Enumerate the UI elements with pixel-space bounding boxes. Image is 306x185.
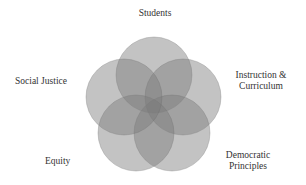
label-democratic-principles: Democratic Principles <box>218 150 278 172</box>
label-instruction-line2: Curriculum <box>228 81 294 92</box>
label-instruction-curriculum: Instruction & Curriculum <box>228 70 294 92</box>
label-democratic-line2: Principles <box>218 161 278 172</box>
label-democratic-line1: Democratic <box>218 150 278 161</box>
venn-circle-social-justice <box>86 59 162 135</box>
label-students: Students <box>133 8 177 19</box>
label-instruction-line1: Instruction & <box>228 70 294 81</box>
label-equity: Equity <box>45 156 70 167</box>
label-social-justice: Social Justice <box>15 76 67 87</box>
